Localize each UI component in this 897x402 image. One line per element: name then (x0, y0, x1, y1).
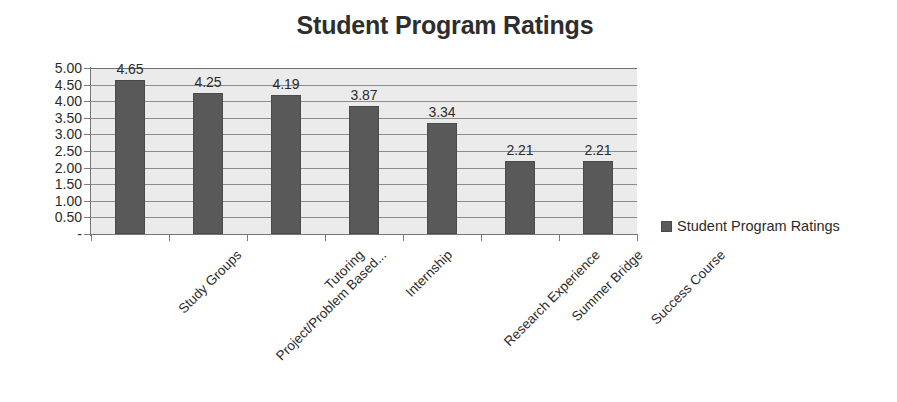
y-axis-tick-label: 0.50 (34, 210, 82, 224)
chart-title: Student Program Ratings (180, 11, 710, 40)
y-axis-tick (84, 85, 90, 86)
legend: Student Program Ratings (661, 219, 840, 234)
legend-label: Student Program Ratings (677, 219, 840, 234)
y-axis-tick (84, 234, 90, 235)
bar-value-label: 3.87 (334, 88, 394, 102)
gridline (91, 68, 637, 69)
bar-value-label: 2.21 (490, 143, 550, 157)
y-axis-tick-label: 5.00 (34, 61, 82, 75)
x-axis-tick (403, 235, 404, 241)
y-axis-tick-label: - (34, 227, 82, 241)
bar (427, 123, 457, 234)
gridline (91, 85, 637, 86)
y-axis-tick-label: 4.50 (34, 78, 82, 92)
y-axis-tick-label: 1.00 (34, 194, 82, 208)
x-axis-tick (481, 235, 482, 241)
y-axis-tick (84, 101, 90, 102)
x-axis-tick (559, 235, 560, 241)
x-axis-category-label: Project/Problem Based... (274, 248, 389, 363)
x-axis-tick (325, 235, 326, 241)
y-axis-tick (84, 118, 90, 119)
bar-chart: Student Program Ratings 5.004.504.003.50… (0, 0, 897, 402)
x-axis-tick (637, 235, 638, 241)
y-axis-tick (84, 201, 90, 202)
bar (583, 161, 613, 234)
y-axis-tick-label: 4.00 (34, 94, 82, 108)
bar-value-label: 4.19 (256, 77, 316, 91)
x-axis-category-label: Study Groups (176, 248, 244, 316)
x-axis-category-label: Internship (403, 248, 455, 300)
y-axis-tick (84, 217, 90, 218)
y-axis-labels: 5.004.504.003.503.002.502.001.501.000.50… (26, 0, 82, 402)
x-axis-tick (91, 235, 92, 241)
y-axis-tick (84, 184, 90, 185)
y-axis-tick-label: 3.00 (34, 127, 82, 141)
x-axis-category-label: Success Course (649, 248, 728, 327)
x-axis-tick (169, 235, 170, 241)
y-axis-tick (84, 151, 90, 152)
y-axis-tick (84, 134, 90, 135)
x-axis-tick (247, 235, 248, 241)
bar (505, 161, 535, 234)
bar-value-label: 4.65 (100, 62, 160, 76)
y-axis-line (90, 67, 91, 236)
legend-swatch-icon (661, 221, 672, 232)
bar (271, 95, 301, 234)
bar (115, 80, 145, 234)
y-axis-tick-label: 1.50 (34, 177, 82, 191)
y-axis-tick-label: 2.00 (34, 161, 82, 175)
y-axis-tick (84, 68, 90, 69)
bar-value-label: 4.25 (178, 75, 238, 89)
bar-value-label: 3.34 (412, 105, 472, 119)
y-axis-tick-label: 2.50 (34, 144, 82, 158)
y-axis-tick-label: 3.50 (34, 111, 82, 125)
bar-value-label: 2.21 (568, 143, 628, 157)
x-axis-line (90, 234, 638, 235)
bar (349, 106, 379, 234)
y-axis-tick (84, 168, 90, 169)
bar (193, 93, 223, 234)
